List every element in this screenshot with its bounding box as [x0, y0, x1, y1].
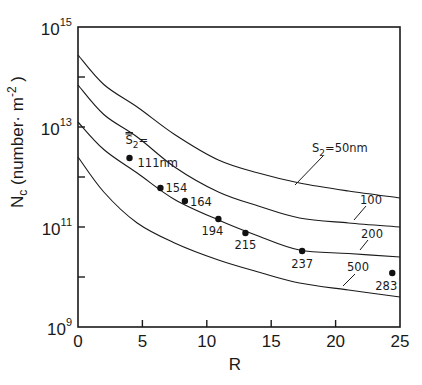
y-tick-label: 1015	[41, 16, 72, 39]
data-point-label: 164	[190, 195, 212, 209]
x-tick-label: 20	[326, 332, 345, 351]
data-point-label: 154	[165, 181, 187, 195]
data-point	[126, 155, 132, 161]
x-tick-label: 0	[73, 332, 82, 351]
data-point	[389, 270, 395, 276]
curve-s2-100nm	[78, 85, 400, 227]
data-point-label: 283	[375, 279, 397, 293]
curve-label: S2=50nm	[312, 141, 368, 158]
y-tick-label: 1011	[42, 216, 72, 239]
curve-s2-500nm	[78, 157, 400, 297]
data-point	[157, 185, 163, 191]
data-point	[215, 216, 221, 222]
x-tick-label: 10	[197, 332, 216, 351]
curve-label-leader	[360, 240, 368, 250]
mean-s2-label: S2=	[126, 133, 149, 150]
data-point-label: 194	[201, 224, 223, 238]
data-point	[242, 230, 248, 236]
curve-label-leader	[295, 156, 323, 185]
data-point-label: 237	[291, 257, 313, 271]
data-point-label: 215	[234, 238, 256, 252]
data-point	[182, 198, 188, 204]
data-point-label: 111nm	[138, 156, 178, 170]
y-tick-label: 1013	[41, 116, 72, 139]
curve-s2-50nm	[78, 55, 400, 198]
curve-label: 100	[360, 193, 382, 207]
data-point	[299, 248, 305, 254]
curve-label: 500	[347, 260, 369, 274]
curve-label: 200	[361, 227, 383, 241]
x-tick-label: 15	[262, 332, 281, 351]
chart: 0510152025101510131011109RNc (number· m-…	[0, 0, 422, 385]
y-axis-title: Nc (number· m-2 )	[5, 76, 30, 208]
x-tick-label: 5	[138, 332, 147, 351]
y-tick-label: 109	[47, 316, 72, 339]
curve-label-leader	[354, 206, 366, 220]
x-tick-label: 25	[391, 332, 410, 351]
x-axis-title: R	[229, 355, 241, 374]
plot-area	[78, 27, 400, 327]
curve-label-leader	[343, 274, 355, 286]
plot-frame	[78, 27, 400, 327]
